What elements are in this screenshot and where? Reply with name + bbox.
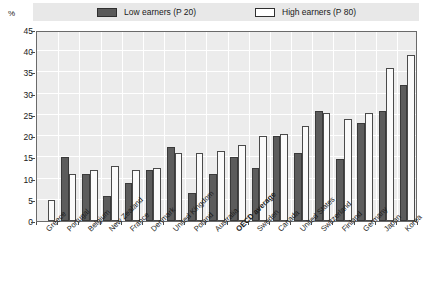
y-tick-mark bbox=[31, 31, 35, 32]
y-axis: 051015202530354045 bbox=[0, 31, 33, 222]
y-tick-label: 15 bbox=[3, 153, 33, 163]
x-tick-mark bbox=[57, 222, 58, 225]
x-tick-mark bbox=[396, 222, 397, 225]
y-tick-mark bbox=[31, 180, 35, 181]
gridline-vertical bbox=[376, 32, 377, 221]
bar-group bbox=[379, 32, 394, 221]
gridline-vertical bbox=[101, 32, 102, 221]
bar-high-earners bbox=[217, 151, 225, 221]
bar-group bbox=[230, 32, 245, 221]
x-tick-mark bbox=[121, 222, 122, 225]
y-tick-mark bbox=[31, 95, 35, 96]
x-tick-mark bbox=[142, 222, 143, 225]
y-tick-mark bbox=[31, 52, 35, 53]
legend-swatch-high-icon bbox=[255, 8, 275, 17]
legend-swatch-low-icon bbox=[97, 8, 117, 17]
y-tick-label: 40 bbox=[3, 47, 33, 57]
bar-group bbox=[40, 32, 55, 221]
bar-high-earners bbox=[69, 174, 77, 221]
gridline-vertical bbox=[397, 32, 398, 221]
bar-low-earners bbox=[357, 123, 365, 221]
x-tick-mark bbox=[100, 222, 101, 225]
x-tick-mark bbox=[332, 222, 333, 225]
gridline-vertical bbox=[312, 32, 313, 221]
x-axis: GreecePortugalBelgiumNew ZealandFranceDe… bbox=[0, 222, 422, 286]
bar-group bbox=[82, 32, 97, 221]
bar-group bbox=[167, 32, 182, 221]
y-tick-mark bbox=[31, 137, 35, 138]
x-tick-mark bbox=[375, 222, 376, 225]
bar-high-earners bbox=[238, 145, 246, 221]
bar-group bbox=[294, 32, 309, 221]
legend-item-low-earners: Low earners (P 20) bbox=[97, 3, 196, 21]
gridline-vertical bbox=[228, 32, 229, 221]
y-tick-mark bbox=[31, 73, 35, 74]
y-tick-label: 20 bbox=[3, 132, 33, 142]
gridline-vertical bbox=[164, 32, 165, 221]
y-tick-label: 30 bbox=[3, 90, 33, 100]
plot-area bbox=[36, 31, 417, 222]
bar-high-earners bbox=[302, 126, 310, 222]
x-tick-mark bbox=[36, 222, 37, 225]
legend-item-high-earners: High earners (P 80) bbox=[255, 3, 356, 21]
y-tick-label: 5 bbox=[3, 196, 33, 206]
bar-group bbox=[400, 32, 415, 221]
bar-group bbox=[125, 32, 140, 221]
x-tick-mark bbox=[354, 222, 355, 225]
x-tick-mark bbox=[290, 222, 291, 225]
bar-group bbox=[336, 32, 351, 221]
bar-group bbox=[103, 32, 118, 221]
y-tick-mark bbox=[31, 116, 35, 117]
gridline-vertical bbox=[79, 32, 80, 221]
bar-group bbox=[357, 32, 372, 221]
legend-label-low: Low earners (P 20) bbox=[124, 7, 196, 17]
gridline-vertical bbox=[58, 32, 59, 221]
bar-high-earners bbox=[280, 134, 288, 221]
x-tick-mark bbox=[227, 222, 228, 225]
bar-group bbox=[146, 32, 161, 221]
bar-high-earners bbox=[111, 166, 119, 221]
gridline-vertical bbox=[355, 32, 356, 221]
y-tick-mark bbox=[31, 158, 35, 159]
x-tick-mark bbox=[417, 222, 418, 225]
bar-group bbox=[252, 32, 267, 221]
gridline-vertical bbox=[122, 32, 123, 221]
y-tick-label: 25 bbox=[3, 111, 33, 121]
bar-low-earners bbox=[400, 85, 408, 221]
chart-legend: Low earners (P 20) High earners (P 80) bbox=[33, 3, 419, 21]
gridline-vertical bbox=[185, 32, 186, 221]
gridline-vertical bbox=[249, 32, 250, 221]
bar-group bbox=[315, 32, 330, 221]
bar-high-earners bbox=[386, 68, 394, 221]
y-tick-mark bbox=[31, 201, 35, 202]
x-tick-mark bbox=[248, 222, 249, 225]
y-tick-label: 45 bbox=[3, 26, 33, 36]
bar-high-earners bbox=[365, 113, 373, 221]
x-tick-mark bbox=[311, 222, 312, 225]
x-tick-mark bbox=[205, 222, 206, 225]
bar-high-earners bbox=[407, 55, 415, 221]
bar-group bbox=[61, 32, 76, 221]
y-axis-unit-label: % bbox=[8, 9, 15, 18]
x-tick-mark bbox=[163, 222, 164, 225]
gridline-vertical bbox=[143, 32, 144, 221]
bar-group bbox=[188, 32, 203, 221]
gridline-vertical bbox=[291, 32, 292, 221]
bar-high-earners bbox=[153, 168, 161, 221]
x-tick-mark bbox=[78, 222, 79, 225]
gridline-vertical bbox=[333, 32, 334, 221]
y-tick-label: 35 bbox=[3, 68, 33, 78]
legend-label-high: High earners (P 80) bbox=[282, 7, 356, 17]
y-tick-label: 10 bbox=[3, 175, 33, 185]
x-tick-mark bbox=[269, 222, 270, 225]
x-tick-mark bbox=[184, 222, 185, 225]
